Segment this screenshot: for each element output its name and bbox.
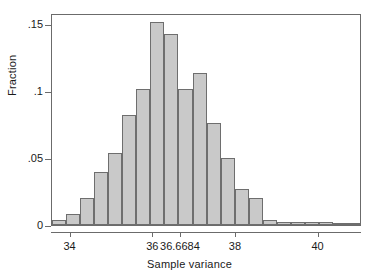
histogram-bar	[164, 34, 178, 225]
y-axis-title: Fraction	[6, 55, 18, 96]
x-tick-label: 40	[311, 240, 323, 252]
x-tick-mark	[318, 232, 319, 237]
y-tick-label: .15	[28, 19, 43, 30]
histogram-bar	[122, 115, 136, 225]
histogram-bar	[347, 223, 361, 225]
histogram-bar	[193, 73, 207, 225]
histogram-bar	[80, 198, 94, 225]
histogram-bar	[249, 198, 263, 225]
y-tick-label: .1	[34, 86, 43, 97]
x-tick-label: 38	[229, 240, 241, 252]
histogram-bar	[108, 153, 122, 225]
x-axis-title: Sample variance	[0, 258, 379, 270]
y-tick-label: .05	[28, 153, 43, 164]
histogram-figure: Fraction 0.05.1.15 343636.66843840 Sampl…	[0, 0, 379, 279]
histogram-bar	[52, 220, 66, 225]
y-tick-label: 0	[37, 220, 43, 231]
histogram-bar	[221, 158, 235, 225]
bars-layer	[52, 15, 360, 225]
x-axis-line	[51, 232, 361, 233]
histogram-bar	[94, 172, 108, 226]
histogram-bar	[305, 222, 319, 225]
histogram-bar	[66, 214, 80, 225]
x-tick-label: 36.6684	[160, 240, 200, 252]
plot-area	[51, 14, 361, 226]
histogram-bar	[319, 222, 333, 225]
histogram-bar	[333, 223, 347, 225]
y-tick-mark	[45, 226, 51, 227]
histogram-bar	[178, 89, 192, 225]
x-tick-label: 34	[63, 240, 75, 252]
histogram-bar	[291, 222, 305, 225]
histogram-bar	[207, 123, 221, 225]
x-tick-mark	[70, 232, 71, 237]
x-tick-mark	[152, 232, 153, 237]
histogram-bar	[263, 220, 277, 225]
x-tick-label: 36	[146, 240, 158, 252]
histogram-bar	[150, 22, 164, 225]
histogram-bar	[235, 189, 249, 225]
x-tick-mark	[180, 232, 181, 237]
histogram-bar	[277, 222, 291, 225]
x-tick-mark	[235, 232, 236, 237]
histogram-bar	[136, 89, 150, 225]
